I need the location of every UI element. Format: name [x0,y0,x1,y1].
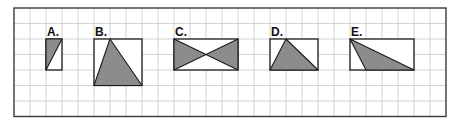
grid-diagram: A.B.C.D.E. [0,0,460,120]
figure-label: E. [351,25,362,39]
figure-d: D. [270,25,318,70]
figure-label: C. [175,25,187,39]
figure-a: A. [46,25,62,70]
figure-label: D. [271,25,283,39]
figure-b: B. [94,25,142,86]
figures: A.B.C.D.E. [46,25,414,86]
figure-label: B. [95,25,107,39]
figure-label: A. [47,25,59,39]
